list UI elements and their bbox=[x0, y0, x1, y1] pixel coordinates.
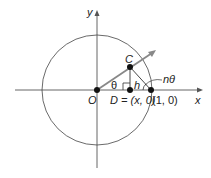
c-label: C bbox=[125, 53, 133, 65]
unit-point-label: (1, 0) bbox=[152, 94, 178, 106]
origin-label: O bbox=[88, 94, 97, 106]
n-theta-leader bbox=[145, 80, 162, 85]
unit-circle-diagram: y x O C θ h nθ D = (x, 0) (1, 0) bbox=[0, 0, 211, 178]
y-axis-label: y bbox=[86, 6, 94, 18]
h-label: h bbox=[134, 79, 140, 91]
point-origin bbox=[94, 87, 100, 93]
d-label: D = (x, 0) bbox=[110, 94, 156, 106]
point-d bbox=[127, 87, 133, 93]
x-axis-label: x bbox=[194, 94, 201, 106]
y-axis-arrow-icon bbox=[95, 10, 100, 16]
theta-label: θ bbox=[111, 79, 117, 91]
point-unit bbox=[148, 87, 154, 93]
n-theta-label: nθ bbox=[163, 73, 175, 85]
x-axis-arrow-icon bbox=[197, 88, 203, 93]
